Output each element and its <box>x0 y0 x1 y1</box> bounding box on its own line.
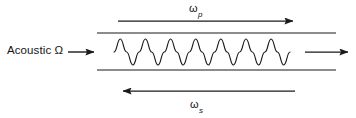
stokes-frequency-label: ωs <box>190 99 203 113</box>
omega-symbol-stokes: ω <box>190 98 199 110</box>
pump-subscript: p <box>198 10 202 19</box>
acoustic-sine-wave <box>114 39 290 65</box>
acoustic-label: Acoustic Ω <box>7 45 63 57</box>
omega-symbol-pump: ω <box>189 2 198 14</box>
stokes-subscript: s <box>199 106 203 115</box>
diagram-svg <box>0 0 356 118</box>
figure-canvas: Acoustic Ω ωp ωs <box>0 0 356 118</box>
pump-frequency-label: ωp <box>189 3 202 17</box>
